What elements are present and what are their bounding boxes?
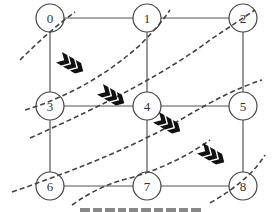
caption-cropped [80,208,201,212]
grid-diagram: 0 1 2 3 4 5 6 7 8 [0,0,277,212]
node-4: 4 [133,92,161,120]
node-8: 8 [229,172,257,200]
node-1: 1 [133,4,161,32]
node-5: 5 [229,92,257,120]
svg-text:5: 5 [240,99,247,114]
svg-text:1: 1 [144,11,151,26]
svg-text:7: 7 [144,179,151,194]
node-0: 0 [36,4,64,32]
node-3: 3 [36,92,64,120]
node-7: 7 [133,172,161,200]
node-6: 6 [36,172,64,200]
svg-text:0: 0 [47,11,54,26]
svg-text:4: 4 [144,99,151,114]
svg-text:8: 8 [240,179,247,194]
chevron-arrow-icon [56,52,86,76]
chevron-arrow-icon [97,84,127,108]
svg-text:6: 6 [47,179,54,194]
chevron-arrow-icon [197,143,227,167]
